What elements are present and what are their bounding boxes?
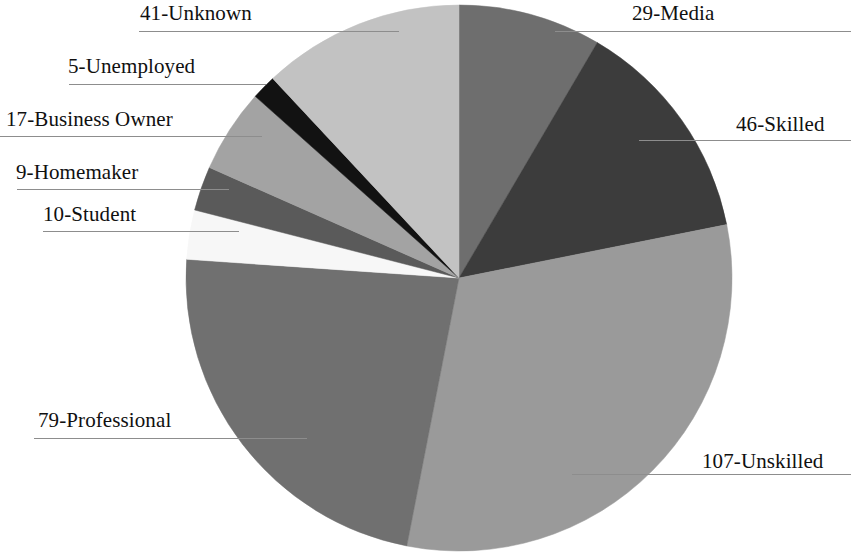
pie-label-unskilled: 107-Unskilled [700,450,825,473]
leader-line-student [43,231,239,232]
pie-label-media: 29-Media [630,2,716,25]
leader-line-media [555,31,851,32]
pie-chart-figure: 41-Unknown 5-Unemployed 17-Business Owne… [0,0,851,559]
pie-label-unemployed-text: 5-Unemployed [66,55,197,78]
pie-label-unskilled-text: 107-Unskilled [700,450,825,473]
leader-line-unknown [139,31,399,32]
leader-line-professional [34,438,307,439]
leader-line-business-owner [0,136,262,137]
pie-label-homemaker-text: 9-Homemaker [14,161,140,184]
pie-label-unknown-text: 41-Unknown [138,2,254,25]
pie-label-unknown: 41-Unknown [138,2,254,25]
pie-label-unemployed: 5-Unemployed [66,55,197,78]
pie-label-professional: 79-Professional [36,409,173,432]
leader-line-unemployed [69,84,266,85]
pie-label-skilled: 46-Skilled [734,113,827,136]
pie-label-homemaker: 9-Homemaker [14,161,140,184]
leader-line-unskilled [572,474,851,475]
pie-label-media-text: 29-Media [630,2,716,25]
pie-label-business-owner: 17-Business Owner [4,108,175,131]
pie-label-student-text: 10-Student [41,203,138,226]
pie-slice-group [186,5,732,551]
leader-line-homemaker [17,189,229,190]
pie-label-student: 10-Student [41,203,138,226]
pie-label-skilled-text: 46-Skilled [734,113,827,136]
leader-line-skilled [639,140,851,141]
pie-label-professional-text: 79-Professional [36,409,173,432]
pie-label-business-owner-text: 17-Business Owner [4,108,175,131]
